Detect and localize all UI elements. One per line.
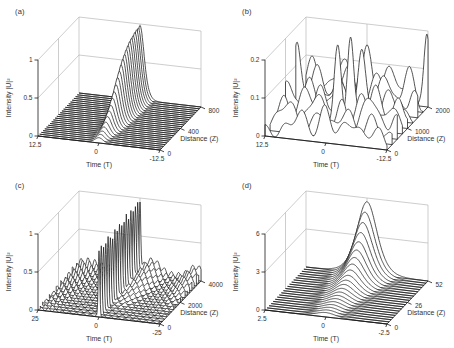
waterfall-plot-b: 012.500.1010000.2-12.52000Time (T)Distan… — [227, 0, 454, 174]
z-tick-label: 1 — [29, 56, 33, 63]
x-axis-label: Time (T) — [86, 161, 112, 169]
x-tick — [98, 143, 99, 146]
y-tick-label: 0 — [168, 324, 172, 331]
z-tick-label: 0.2 — [250, 56, 259, 63]
y-tick — [181, 303, 185, 305]
y-axis-label: Distance (Z) — [180, 309, 218, 317]
x-tick-label: -25 — [152, 329, 162, 336]
y-tick-label: 26 — [415, 302, 423, 309]
panel-d: (d) 02.5030266-2.552Time (T)Distance (Z)… — [227, 174, 454, 348]
x-axis-label: Time (T) — [313, 161, 339, 169]
panel-a: (a) 012.500.504001-12.5800Time (T)Distan… — [0, 0, 227, 174]
y-tick — [428, 107, 432, 109]
y-axis-label: Distance (Z) — [180, 135, 218, 143]
y-tick — [201, 107, 205, 109]
panel-b: (b) 012.500.1010000.2-12.52000Time (T)Di… — [227, 0, 454, 174]
y-tick-label: 0 — [395, 324, 399, 331]
waterfall-plot-d: 02.5030266-2.552Time (T)Distance (Z)Inte… — [227, 174, 454, 348]
y-tick-label: 0 — [395, 150, 399, 157]
x-tick-label: -12.5 — [150, 155, 165, 162]
y-tick-label: 52 — [436, 281, 444, 288]
y-tick — [160, 150, 164, 152]
figure-canvas: (a) 012.500.504001-12.5800Time (T)Distan… — [0, 0, 454, 348]
y-tick — [387, 324, 391, 326]
y-tick — [408, 129, 412, 131]
panel-c: (c) 02500.5020001-254000Time (T)Distance… — [0, 174, 227, 348]
z-tick-label: 0 — [256, 306, 260, 313]
x-tick-label: -2.5 — [378, 329, 390, 336]
y-tick — [428, 281, 432, 283]
x-tick-label: 25 — [31, 315, 39, 322]
x-tick-label: 0 — [321, 322, 325, 329]
z-axis-label: Intensity |U|² — [5, 252, 13, 292]
x-tick-label: 0 — [94, 322, 98, 329]
y-tick — [160, 324, 164, 326]
y-tick-label: 2000 — [436, 107, 451, 114]
x-tick — [386, 150, 387, 153]
z-tick-label: 3 — [256, 268, 260, 275]
y-tick — [181, 129, 185, 131]
x-tick — [325, 143, 326, 146]
y-tick-label: 1000 — [415, 128, 430, 135]
y-tick-label: 2000 — [188, 302, 203, 309]
z-tick-label: 0 — [29, 306, 33, 313]
x-tick — [264, 136, 265, 139]
x-axis-label: Time (T) — [86, 335, 112, 343]
z-tick-label: 0 — [29, 132, 33, 139]
z-axis-label: Intensity |U|² — [5, 78, 13, 118]
x-axis-label: Time (T) — [313, 335, 339, 343]
y-tick-label: 0 — [168, 150, 172, 157]
z-tick-label: 0.1 — [250, 94, 259, 101]
y-tick — [387, 150, 391, 152]
y-tick — [408, 303, 412, 305]
y-tick-label: 400 — [188, 128, 199, 135]
x-tick-label: 0 — [321, 148, 325, 155]
x-tick — [325, 317, 326, 320]
x-tick-label: 12.5 — [256, 141, 269, 148]
waterfall-plot-c: 02500.5020001-254000Time (T)Distance (Z)… — [0, 174, 227, 348]
y-tick-label: 800 — [209, 107, 220, 114]
x-tick — [98, 317, 99, 320]
y-axis-label: Distance (Z) — [407, 309, 445, 317]
y-axis-label: Distance (Z) — [407, 135, 445, 143]
y-tick-label: 4000 — [209, 281, 224, 288]
z-tick-label: 0 — [256, 132, 260, 139]
y-tick — [201, 281, 205, 283]
z-tick-label: 1 — [29, 230, 33, 237]
x-tick — [37, 310, 38, 313]
x-tick — [159, 150, 160, 153]
x-tick — [386, 324, 387, 327]
x-tick-label: 2.5 — [257, 315, 266, 322]
waterfall-plot-a: 012.500.504001-12.5800Time (T)Distance (… — [0, 0, 227, 174]
z-tick-label: 0.5 — [23, 268, 32, 275]
x-tick — [37, 136, 38, 139]
x-tick-label: 12.5 — [29, 141, 42, 148]
z-tick-label: 6 — [256, 230, 260, 237]
z-tick-label: 0.5 — [23, 94, 32, 101]
x-tick-label: -12.5 — [377, 155, 392, 162]
z-axis-label: Intensity |U|² — [232, 252, 240, 292]
x-tick — [159, 324, 160, 327]
x-tick-label: 0 — [94, 148, 98, 155]
x-tick — [264, 310, 265, 313]
z-axis-label: Intensity |U|² — [232, 78, 240, 118]
